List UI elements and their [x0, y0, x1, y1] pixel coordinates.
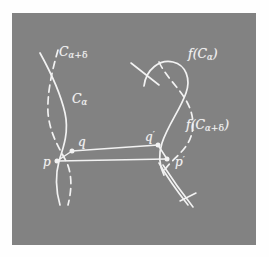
chalkboard-plate: Cα+δ Cα f(Cα) f(Cα+δ) p q q′ p′ — [12, 13, 256, 245]
point-marker-p-prime — [165, 157, 170, 162]
curve-c-alpha-dashed — [48, 50, 71, 205]
point-marker-p — [55, 159, 60, 164]
label-f-c-alpha-delta-base: C — [196, 117, 206, 132]
label-c-alpha-delta: Cα+δ — [59, 46, 88, 60]
label-c-alpha-delta-base: C — [59, 44, 69, 59]
curve-c-alpha-delta-solid — [40, 53, 66, 205]
label-point-p-prime: p′ — [175, 155, 185, 168]
label-c-alpha: Cα — [72, 93, 87, 107]
segment-p-to-p-prime — [57, 159, 167, 161]
label-point-p-prime-mark: ′ — [183, 154, 185, 165]
label-point-q-prime: q′ — [145, 130, 155, 143]
label-point-q-prime-mark: ′ — [153, 129, 155, 140]
label-f-c-alpha-delta-close: ) — [224, 117, 229, 132]
label-point-q: q — [78, 136, 86, 148]
point-marker-q-prime — [156, 143, 161, 148]
label-point-p-prime-base: p — [175, 155, 183, 169]
label-c-alpha-delta-op: +δ — [74, 49, 87, 60]
label-f-c-alpha: f(Cα) — [188, 48, 218, 62]
tail-stroke-inner — [163, 165, 193, 207]
label-c-alpha-base: C — [72, 91, 82, 106]
point-marker-q — [70, 149, 75, 154]
label-f-c-alpha-delta: f(Cα+δ) — [186, 119, 229, 133]
label-f-c-alpha-delta-op: +δ — [211, 122, 224, 133]
label-c-alpha-sub: α — [82, 97, 88, 107]
figure-page: Cα+δ Cα f(Cα) f(Cα+δ) p q q′ p′ — [0, 0, 269, 257]
label-point-q-prime-base: q — [145, 130, 153, 144]
label-f-c-alpha-base: C — [198, 46, 208, 61]
label-f-c-alpha-close: ) — [213, 46, 218, 61]
label-point-p: p — [43, 156, 51, 168]
